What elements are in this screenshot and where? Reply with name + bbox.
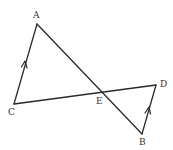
label-e: E [96, 96, 103, 106]
label-c: C [8, 107, 15, 117]
label-a: A [32, 10, 40, 20]
segment-cd [14, 85, 156, 104]
segment-ab [37, 24, 142, 134]
geometry-diagram: A B C D E [0, 0, 173, 150]
label-d: D [160, 79, 167, 89]
label-b: B [139, 137, 146, 147]
